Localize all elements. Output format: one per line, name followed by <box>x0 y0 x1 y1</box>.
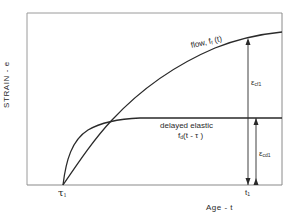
flow-strain-marker <box>246 38 251 185</box>
x-axis-label: Age - t <box>206 204 233 212</box>
delayed-elastic-strain-marker <box>254 118 259 185</box>
y-axis-label: STRAIN - e <box>2 61 11 108</box>
t1-tick-label: t1 <box>245 189 250 197</box>
arrow-up-icon <box>254 118 259 125</box>
creep-strain-diagram: STRAIN - e flow, ff (t) εcf1 delayed ela… <box>0 0 297 221</box>
delayed-elastic-formula: fd(t - τ ) <box>178 132 203 140</box>
arrow-up-icon <box>246 38 251 45</box>
tau1-tick-label: τ1 <box>58 188 67 198</box>
diagram-canvas <box>0 0 297 221</box>
flow-strain-label: εcf1 <box>251 79 261 87</box>
delayed-elastic-label: delayed elastic <box>160 122 213 130</box>
flow-curve <box>63 32 282 185</box>
delayed-elastic-strain-label: εcd1 <box>259 150 271 158</box>
arrow-down-icon <box>246 178 251 185</box>
arrow-up-icon <box>254 178 259 185</box>
